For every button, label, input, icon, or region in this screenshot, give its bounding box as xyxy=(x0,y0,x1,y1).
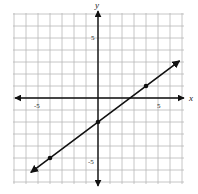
series-line xyxy=(31,61,180,173)
data-point xyxy=(96,120,101,125)
data-point xyxy=(48,156,53,161)
coordinate-plane: x y -5 5 5 -5 xyxy=(0,0,198,194)
x-tick-label-neg5: -5 xyxy=(34,102,40,110)
x-axis-label: x xyxy=(188,93,193,103)
data-point xyxy=(144,84,149,89)
axes xyxy=(15,11,184,186)
data-line xyxy=(31,61,180,173)
y-tick-label-neg5: -5 xyxy=(88,158,94,166)
y-tick-label-pos5: 5 xyxy=(91,34,95,42)
x-tick-label-pos5: 5 xyxy=(157,102,161,110)
y-axis-label: y xyxy=(94,0,99,10)
